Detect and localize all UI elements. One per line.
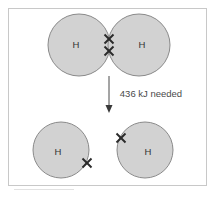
atom-label-bottom-left: H [55, 146, 62, 157]
energy-required-label: 436 kJ needed [120, 88, 182, 99]
bottom-stage-separated-atoms: H H [33, 122, 173, 178]
bond-dissociation-figure: H H 436 kJ needed [0, 0, 219, 197]
atom-label-bottom-right: H [145, 146, 152, 157]
diagram-canvas: H H 436 kJ needed [0, 0, 219, 197]
atom-label-top-left: H [73, 39, 80, 50]
atom-label-top-right: H [139, 39, 146, 50]
top-stage-h2-molecule: H H [48, 14, 170, 76]
energy-transition: 436 kJ needed [106, 76, 183, 113]
scan-artifact [14, 189, 74, 190]
reaction-arrow-head-icon [106, 105, 113, 113]
